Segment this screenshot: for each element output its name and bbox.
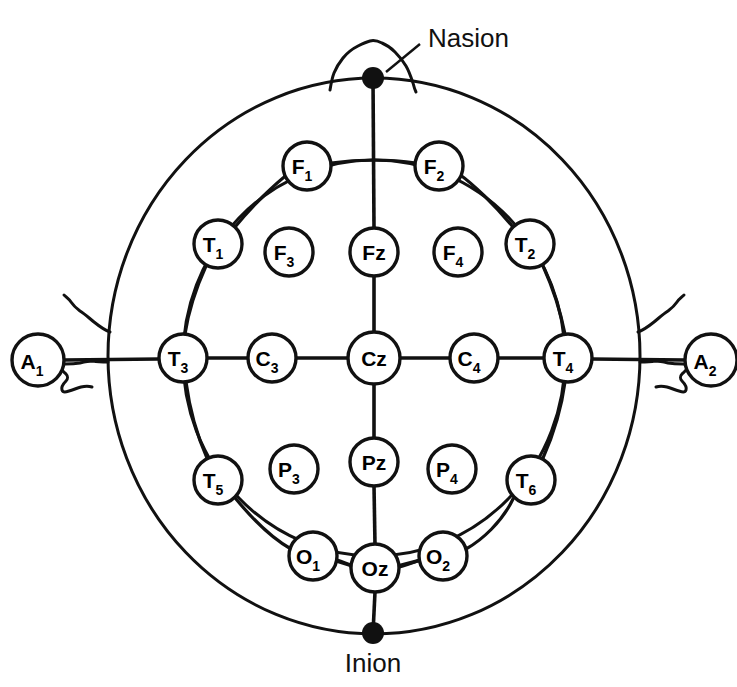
line-a1-t3 [64,359,159,360]
electrode-T5[interactable]: T5 [194,456,242,504]
inion-label: Inion [345,648,401,678]
line-nasion-fz [373,78,374,228]
electrode-base-label: A [694,350,709,373]
arc-o2-t6 [466,499,513,549]
electrode-sub-label: 3 [287,254,295,270]
electrode-sub-label: 1 [305,168,313,184]
electrode-base-label: F [424,155,437,178]
electrode-sub-label: 4 [450,471,458,487]
right-ear-outline [638,295,687,392]
electrode-base-label: Oz [362,557,389,580]
electrode-base-label: Pz [362,451,387,474]
electrode-F3[interactable]: F3 [265,228,313,276]
electrode-F1[interactable]: F1 [283,142,331,190]
electrode-A1[interactable]: A1 [12,334,64,386]
line-t4-a2 [592,359,685,360]
svg-text:Pz: Pz [362,451,387,474]
electrode-sub-label: 1 [36,363,44,379]
eeg-diagram-canvas: Nasion Inion A1 A2 F1 F2 T1 F3 [0,0,737,687]
arc-t5-o1 [236,499,291,549]
electrode-base-label: C [458,347,473,370]
electrode-T1[interactable]: T1 [194,220,242,268]
electrode-O2[interactable]: O2 [419,532,467,580]
electrode-base-label: Fz [362,241,385,264]
electrode-sub-label: 2 [709,363,717,379]
electrode-sub-label: 1 [216,246,224,262]
electrode-base-label: F [274,241,287,264]
nasion-dot [362,67,384,89]
svg-text:Cz: Cz [361,347,387,370]
electrode-base-label: F [292,155,305,178]
nasion-label: Nasion [428,23,509,53]
electrode-base-label: F [443,241,456,264]
electrode-sub-label: 2 [437,168,445,184]
electrode-base-label: P [436,458,450,481]
electrode-sub-label: 4 [473,360,481,376]
electrode-base-label: T [553,347,566,370]
arc-f2-t2 [459,174,513,227]
arc-t3-t5 [186,382,207,458]
electrode-sub-label: 3 [292,471,300,487]
electrode-base-label: C [256,347,271,370]
arc-t1-f1 [235,174,288,227]
electrode-C3[interactable]: C3 [248,334,296,382]
arc-t2-t4 [543,266,565,334]
electrode-Oz[interactable]: Oz [351,544,399,592]
electrode-A2[interactable]: A2 [685,334,737,386]
electrode-sub-label: 5 [216,482,224,498]
electrode-sub-label: 2 [528,246,536,262]
electrode-base-label: T [203,233,216,256]
inion-dot [362,622,384,644]
electrode-Cz[interactable]: Cz [348,332,400,384]
electrode-T2[interactable]: T2 [506,220,554,268]
electrode-T6[interactable]: T6 [507,456,555,504]
line-pz-oz [374,486,375,544]
electrode-Pz[interactable]: Pz [350,438,398,486]
electrode-base-label: P [278,458,292,481]
electrode-sub-label: 4 [566,360,574,376]
electrode-T4[interactable]: T4 [544,334,592,382]
electrode-sub-label: 1 [312,558,320,574]
electrode-base-label: T [168,347,181,370]
electrode-C4[interactable]: C4 [450,334,498,382]
left-ear-outline [61,295,110,392]
arc-t1-t3 [185,266,206,334]
electrode-P3[interactable]: P3 [270,445,318,493]
electrode-F4[interactable]: F4 [434,228,482,276]
eeg-electrode-map: Nasion Inion A1 A2 F1 F2 T1 F3 [0,0,737,687]
electrode-F2[interactable]: F2 [415,142,463,190]
electrode-base-label: Cz [361,347,387,370]
electrode-sub-label: 3 [271,360,279,376]
svg-text:Oz: Oz [362,557,389,580]
electrode-base-label: T [516,469,529,492]
electrode-sub-label: 4 [456,254,464,270]
electrode-sub-label: 2 [442,558,450,574]
electrode-base-label: O [426,545,442,568]
electrode-T3[interactable]: T3 [159,334,207,382]
electrode-base-label: O [296,545,312,568]
electrode-base-label: A [21,350,36,373]
electrode-sub-label: 6 [529,482,537,498]
electrode-Fz[interactable]: Fz [350,228,398,276]
svg-text:Fz: Fz [362,241,385,264]
electrode-sub-label: 3 [181,360,189,376]
electrode-base-label: T [203,469,216,492]
electrode-base-label: T [515,233,528,256]
electrode-O1[interactable]: O1 [289,532,337,580]
electrode-P4[interactable]: P4 [428,445,476,493]
